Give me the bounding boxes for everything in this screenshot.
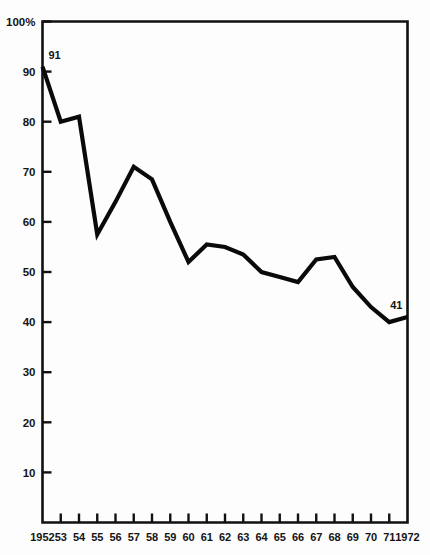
y-tick-label-70: 70 bbox=[23, 166, 36, 178]
x-tick-label-1956: 56 bbox=[109, 531, 121, 543]
data-line-series-1 bbox=[43, 67, 408, 323]
y-tick-label-60: 60 bbox=[23, 216, 36, 228]
x-tick-label-1970: 70 bbox=[365, 531, 377, 543]
x-axis-tick-labels: 1952535455565758596061626364656667686970… bbox=[30, 531, 419, 543]
y-tick-label-80: 80 bbox=[23, 116, 36, 128]
data-point-labels: 9141 bbox=[49, 49, 403, 312]
data-series-group bbox=[43, 67, 408, 323]
x-tick-label-1966: 66 bbox=[292, 531, 304, 543]
x-tick-label-1968: 68 bbox=[328, 531, 340, 543]
line-chart: 102030405060708090100% 19525354555657585… bbox=[0, 0, 430, 555]
x-tick-label-1958: 58 bbox=[146, 531, 158, 543]
x-tick-label-1952: 1952 bbox=[30, 531, 54, 543]
y-tick-label-50: 50 bbox=[23, 266, 36, 278]
x-tick-label-1967: 67 bbox=[310, 531, 322, 543]
x-tick-label-1971: 71 bbox=[383, 531, 395, 543]
last-point-value: 41 bbox=[390, 299, 402, 311]
x-tick-label-1957: 57 bbox=[128, 531, 140, 543]
x-tick-label-1960: 60 bbox=[182, 531, 194, 543]
x-tick-label-1955: 55 bbox=[91, 531, 103, 543]
x-tick-label-1953: 53 bbox=[55, 531, 67, 543]
x-tick-label-1964: 64 bbox=[255, 531, 268, 543]
chart-plot-frame bbox=[43, 22, 408, 523]
x-tick-label-1965: 65 bbox=[274, 531, 286, 543]
x-tick-label-1969: 69 bbox=[347, 531, 359, 543]
y-axis-tick-labels: 102030405060708090100% bbox=[6, 16, 35, 479]
x-tick-label-1961: 61 bbox=[201, 531, 213, 543]
y-tick-label-40: 40 bbox=[23, 316, 36, 328]
y-tick-label-30: 30 bbox=[23, 366, 36, 378]
x-tick-label-1972: 1972 bbox=[395, 531, 419, 543]
chart-container: 102030405060708090100% 19525354555657585… bbox=[0, 0, 430, 555]
y-tick-label-100: 100% bbox=[6, 16, 35, 28]
x-tick-label-1959: 59 bbox=[164, 531, 176, 543]
y-tick-label-10: 10 bbox=[23, 467, 36, 479]
x-axis-ticks bbox=[61, 514, 390, 523]
y-tick-label-20: 20 bbox=[23, 417, 36, 429]
first-point-value: 91 bbox=[49, 49, 61, 61]
axis-frame bbox=[43, 22, 408, 523]
x-tick-label-1963: 63 bbox=[237, 531, 249, 543]
x-tick-label-1962: 62 bbox=[219, 531, 231, 543]
x-tick-label-1954: 54 bbox=[73, 531, 86, 543]
y-tick-label-90: 90 bbox=[23, 66, 36, 78]
